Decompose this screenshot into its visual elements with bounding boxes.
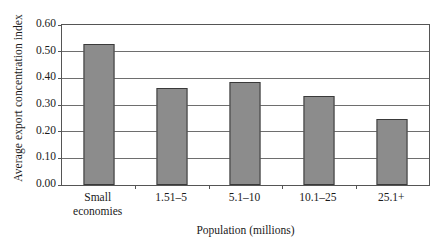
x-axis-tick-mark: [356, 185, 357, 189]
y-axis-tick-label: 0.60: [20, 18, 56, 29]
bar: [157, 88, 188, 185]
x-axis-tick-mark: [282, 185, 283, 189]
bar-slot: [135, 25, 208, 185]
bar-slot: [62, 25, 135, 185]
x-axis-tick-label-line: economies: [61, 204, 134, 218]
bar-series: [62, 25, 429, 185]
x-axis-tick-label: 10.1–25: [281, 190, 354, 204]
x-axis-tick-label-line: Small: [61, 190, 134, 204]
bar-slot: [356, 25, 429, 185]
x-axis-tick-label-line: 10.1–25: [281, 190, 354, 204]
x-axis-tick-label-line: 25.1+: [355, 190, 428, 204]
x-axis-tick-label-line: 1.51–5: [134, 190, 207, 204]
plot-area: [61, 24, 430, 186]
y-axis-tick-labels: 0.000.100.200.300.400.500.60: [20, 0, 56, 247]
bar: [230, 82, 261, 185]
bar: [303, 96, 334, 185]
y-axis-tick-label: 0.00: [20, 178, 56, 189]
x-axis-title: Population (millions): [61, 224, 430, 236]
bar-slot: [282, 25, 355, 185]
y-axis-tick-label: 0.40: [20, 71, 56, 82]
bar-slot: [209, 25, 282, 185]
bar-chart-figure: Average export concentration index 0.000…: [0, 0, 439, 247]
y-axis-tick-label: 0.30: [20, 98, 56, 109]
y-axis-tick-label: 0.10: [20, 151, 56, 162]
x-axis-tick-label: 5.1–10: [208, 190, 281, 204]
x-axis-tick-mark: [209, 185, 210, 189]
x-axis-tick-label: 25.1+: [355, 190, 428, 204]
bar: [83, 44, 114, 185]
x-axis-tick-label: Smalleconomies: [61, 190, 134, 218]
x-axis-tick-labels: Smalleconomies1.51–55.1–1010.1–2525.1+: [61, 190, 430, 228]
y-axis-tick-label: 0.50: [20, 45, 56, 56]
x-axis-tick-label: 1.51–5: [134, 190, 207, 204]
x-axis-tick-mark: [135, 185, 136, 189]
y-axis-tick-label: 0.20: [20, 125, 56, 136]
x-axis-tick-label-line: 5.1–10: [208, 190, 281, 204]
bar: [377, 119, 408, 185]
